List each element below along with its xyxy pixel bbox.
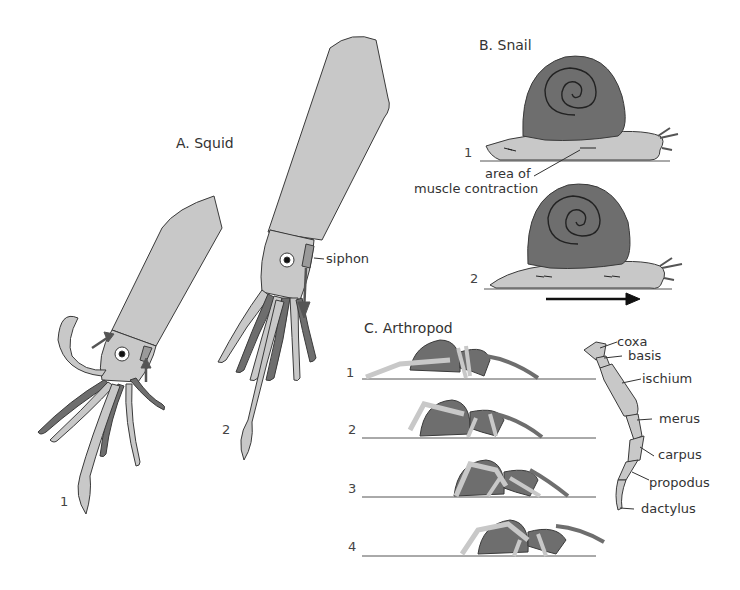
leg-part-coxa: coxa [617,335,647,348]
leg-part-propodus: propodus [649,476,710,489]
squid-stage-1-label: 1 [60,495,68,508]
locomotion-diagram [0,0,740,590]
arthropod-stage-4-label: 4 [348,540,356,553]
leg-part-dactylus: dactylus [641,502,696,515]
squid-stage-2-label: 2 [222,423,230,436]
arthropod-stage-3-label: 3 [348,482,356,495]
squid-panel-title: A. Squid [176,136,234,150]
leg-part-basis: basis [628,349,661,362]
snail-stage-1-label: 1 [464,146,472,159]
snail-stage-2-label: 2 [470,272,478,285]
leg-diagram [584,342,654,510]
snail-panel-title: B. Snail [479,38,532,52]
arthropod-stages [362,340,604,556]
snail-1-illustration [480,56,678,161]
arthropod-stage-2-label: 2 [348,423,356,436]
arthropod-panel-title: C. Arthropod [364,321,453,335]
squid-1-illustration [38,196,222,514]
leg-part-ischium: ischium [642,372,692,385]
siphon-label: siphon [326,252,369,265]
contraction-label-line2: muscle contraction [414,182,538,195]
contraction-label-line1: area of [485,167,531,180]
leg-part-merus: merus [659,412,700,425]
arthropod-stage-1-label: 1 [346,366,354,379]
leg-part-carpus: carpus [658,448,702,461]
squid-2-illustration [218,36,389,460]
snail-2-illustration [484,184,682,305]
